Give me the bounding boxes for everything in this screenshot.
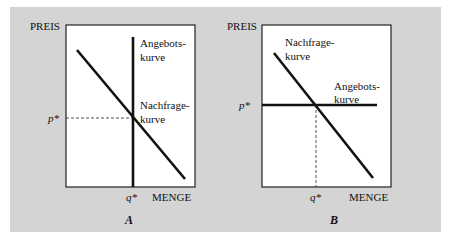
panel-b-y-axis-label: PREIS [227, 20, 257, 32]
panel-a-supply-label-1: Angebots- [140, 37, 186, 49]
panel-b-demand-label-2: kurve [285, 50, 310, 62]
panel-a-demand-label-1: Nachfrage- [140, 99, 189, 111]
panel-a-y-axis-label: PREIS [30, 20, 60, 32]
panel-b-demand-label-1: Nachfrage- [285, 36, 334, 48]
panel-b-x-axis-label: MENGE [349, 191, 388, 203]
panel-a-price-marker: p* [48, 112, 59, 124]
panel-a-quantity-marker: q* [126, 191, 137, 203]
panel-a-supply-label-2: kurve [140, 51, 165, 63]
panel-a-demand-label-2: kurve [140, 113, 165, 125]
panel-b-supply-label-2: kurve [334, 93, 359, 105]
panel-a-caption: A [125, 214, 133, 226]
panel-b-price-marker: p* [239, 99, 250, 111]
supply-demand-diagrams [0, 0, 452, 248]
panel-b-quantity-marker: q* [310, 191, 321, 203]
panel-b-caption: B [330, 214, 338, 226]
panel-a-x-axis-label: MENGE [152, 191, 191, 203]
panel-b-supply-label-1: Angebots- [334, 80, 380, 92]
panel-b-plot [262, 25, 391, 187]
